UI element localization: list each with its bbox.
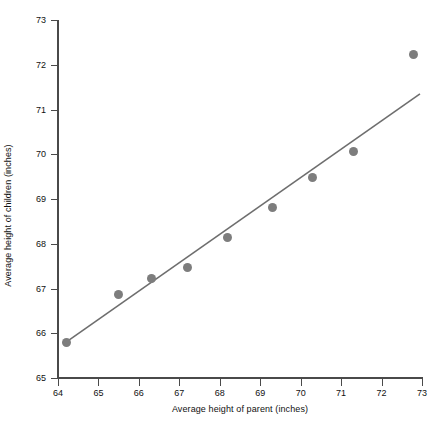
x-tick-label-66: 66 xyxy=(126,388,152,398)
y-tick-label-73: 73 xyxy=(22,15,46,25)
y-tick-69 xyxy=(51,199,58,200)
y-tick-label-69: 69 xyxy=(22,194,46,204)
x-tick-label-73: 73 xyxy=(409,388,435,398)
data-point xyxy=(183,263,192,272)
y-tick-label-66: 66 xyxy=(22,328,46,338)
y-tick-label-72: 72 xyxy=(22,60,46,70)
x-axis-line xyxy=(57,377,423,379)
y-tick-65 xyxy=(51,378,58,379)
y-tick-label-70: 70 xyxy=(22,149,46,159)
regression-line xyxy=(0,0,439,431)
x-tick-label-68: 68 xyxy=(207,388,233,398)
y-tick-66 xyxy=(51,333,58,334)
y-tick-70 xyxy=(51,154,58,155)
data-point xyxy=(114,290,123,299)
data-point xyxy=(409,50,418,59)
x-tick-65 xyxy=(98,379,99,386)
x-tick-68 xyxy=(220,379,221,386)
x-tick-label-67: 67 xyxy=(166,388,192,398)
data-point xyxy=(62,338,71,347)
data-point xyxy=(147,274,156,283)
x-tick-72 xyxy=(382,379,383,386)
x-tick-71 xyxy=(341,379,342,386)
y-tick-67 xyxy=(51,289,58,290)
y-tick-73 xyxy=(51,20,58,21)
scatter-plot-figure: Average height of children (inches) Aver… xyxy=(0,0,439,431)
x-tick-label-70: 70 xyxy=(288,388,314,398)
y-tick-72 xyxy=(51,65,58,66)
y-tick-label-67: 67 xyxy=(22,284,46,294)
y-tick-label-68: 68 xyxy=(22,239,46,249)
x-tick-label-71: 71 xyxy=(328,388,354,398)
x-tick-66 xyxy=(139,379,140,386)
y-tick-label-65: 65 xyxy=(22,373,46,383)
x-axis-title: Average height of parent (inches) xyxy=(58,404,422,414)
x-tick-67 xyxy=(179,379,180,386)
x-tick-label-69: 69 xyxy=(247,388,273,398)
data-point xyxy=(268,203,277,212)
y-tick-68 xyxy=(51,244,58,245)
x-tick-label-72: 72 xyxy=(369,388,395,398)
x-tick-69 xyxy=(260,379,261,386)
y-tick-label-71: 71 xyxy=(22,105,46,115)
x-tick-70 xyxy=(301,379,302,386)
data-point xyxy=(308,173,317,182)
x-tick-label-65: 65 xyxy=(85,388,111,398)
y-axis-title: Average height of children (inches) xyxy=(0,0,16,431)
x-tick-label-64: 64 xyxy=(45,388,71,398)
data-point xyxy=(349,147,358,156)
data-point xyxy=(223,233,232,242)
x-tick-64 xyxy=(58,379,59,386)
y-tick-71 xyxy=(51,110,58,111)
x-tick-73 xyxy=(422,379,423,386)
